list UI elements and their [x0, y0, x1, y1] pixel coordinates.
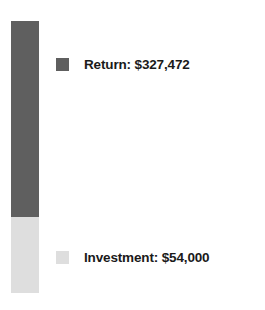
legend-entry-return: Return: $327,472: [56, 58, 190, 72]
bar-segment-return: [11, 21, 39, 217]
legend-swatch-return-icon: [56, 58, 69, 71]
legend-label-investment: Investment: $54,000: [84, 251, 209, 265]
stacked-bar-column: [11, 21, 39, 293]
legend-swatch-investment-icon: [56, 251, 69, 264]
stacked-bar-chart: Return: $327,472 Investment: $54,000: [0, 0, 265, 310]
legend-entry-investment: Investment: $54,000: [56, 251, 209, 265]
bar-segment-investment: [11, 217, 39, 293]
legend-label-return: Return: $327,472: [84, 58, 190, 72]
